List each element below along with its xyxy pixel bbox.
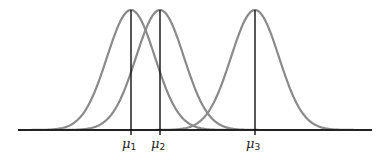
- normal-curves-diagram: μ1μ2μ3: [0, 0, 386, 160]
- curves: [30, 10, 355, 130]
- mean-label-2: μ2: [151, 136, 165, 152]
- mean-lines: [131, 10, 255, 135]
- mean-label-1: μ1: [122, 136, 136, 152]
- mean-labels: μ1μ2μ3: [122, 136, 260, 152]
- mean-label-3: μ3: [246, 136, 260, 152]
